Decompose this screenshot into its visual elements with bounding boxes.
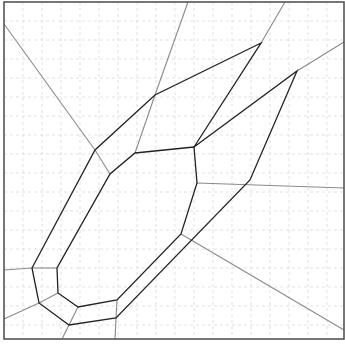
grid-lines bbox=[4, 2, 344, 339]
voronoi-edge bbox=[69, 307, 78, 325]
diagram-canvas bbox=[0, 0, 345, 353]
voronoi-edge bbox=[62, 325, 69, 339]
voronoi-edge bbox=[115, 318, 116, 339]
plot-frame bbox=[4, 2, 344, 339]
voronoi-edges bbox=[4, 2, 344, 339]
voronoi-edge bbox=[116, 300, 117, 318]
outer-polygon bbox=[32, 43, 297, 325]
voronoi-edge bbox=[4, 303, 39, 319]
voronoi-edge bbox=[181, 234, 344, 330]
diagram-svg bbox=[0, 0, 345, 353]
voronoi-edge bbox=[197, 183, 344, 188]
voronoi-edge bbox=[4, 24, 95, 150]
voronoi-edge bbox=[297, 42, 344, 71]
voronoi-edge bbox=[261, 2, 285, 43]
inner-polygon bbox=[57, 147, 197, 307]
